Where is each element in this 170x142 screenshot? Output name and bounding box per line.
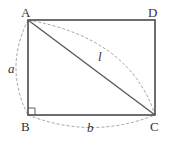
vertex-label-b: B bbox=[21, 119, 30, 134]
side-label-a: a bbox=[8, 61, 15, 76]
diagonal-label-l: l bbox=[98, 49, 102, 64]
vertex-label-d: D bbox=[148, 5, 157, 20]
diagonal-ac bbox=[28, 20, 155, 115]
rectangle-diagram: A D B C a b l bbox=[0, 0, 170, 142]
arc-a bbox=[16, 20, 28, 115]
vertex-label-a: A bbox=[21, 5, 31, 20]
vertex-label-c: C bbox=[150, 119, 159, 134]
side-label-b: b bbox=[87, 120, 94, 135]
right-angle-mark bbox=[28, 108, 35, 115]
